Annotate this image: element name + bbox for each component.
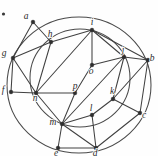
vertex-label-i: i bbox=[91, 17, 94, 27]
edge-layer bbox=[11, 22, 148, 148]
graph-vertex-l bbox=[90, 113, 94, 117]
vertex-label-e: e bbox=[54, 148, 58, 156]
graph-diagram: abcdefghijklmnop bbox=[0, 0, 158, 156]
graph-edge-a-g bbox=[13, 22, 33, 58]
vertex-label-o: o bbox=[89, 66, 94, 76]
vertex-label-g: g bbox=[2, 48, 7, 58]
vertex-label-m: m bbox=[50, 117, 57, 127]
vertex-label-f: f bbox=[2, 85, 6, 95]
graph-vertex-f bbox=[9, 90, 13, 94]
graph-edge-j-o bbox=[92, 57, 124, 65]
vertex-label-b: b bbox=[150, 53, 155, 63]
vertex-label-p: p bbox=[72, 81, 78, 91]
graph-vertex-k bbox=[111, 97, 115, 101]
vertex-label-h: h bbox=[48, 29, 53, 39]
vertex-label-l: l bbox=[90, 103, 93, 113]
graph-vertex-p bbox=[73, 91, 77, 95]
stray-dot-layer bbox=[2, 12, 5, 15]
graph-vertex-a bbox=[31, 20, 35, 24]
graph-edge-k-l bbox=[92, 99, 113, 115]
vertex-label-n: n bbox=[33, 93, 38, 103]
graph-edge-g-h bbox=[13, 42, 51, 58]
figure-root: abcdefghijklmnop bbox=[0, 0, 158, 156]
stray-dot bbox=[2, 12, 5, 15]
graph-edge-i-b bbox=[92, 30, 148, 60]
graph-vertex-i bbox=[90, 28, 94, 32]
graph-vertex-h bbox=[49, 40, 53, 44]
vertex-label-a: a bbox=[24, 11, 29, 21]
graph-edge-n-i bbox=[36, 30, 92, 93]
label-layer: abcdefghijklmnop bbox=[2, 11, 155, 156]
vertex-label-c: c bbox=[142, 110, 147, 120]
graph-vertex-m bbox=[60, 122, 64, 126]
graph-edge-g-f bbox=[11, 58, 13, 92]
graph-vertex-g bbox=[11, 56, 15, 60]
graph-edge-p-m bbox=[62, 93, 75, 124]
graph-edge-i-j bbox=[92, 30, 124, 57]
graph-edge-m-e bbox=[58, 124, 62, 148]
graph-vertex-j bbox=[122, 55, 126, 59]
vertex-label-d: d bbox=[93, 148, 98, 156]
graph-edge-m-d bbox=[62, 124, 96, 148]
graph-edge-l-d bbox=[92, 115, 96, 148]
circle-layer bbox=[7, 17, 151, 153]
graph-edge-h-i bbox=[51, 30, 92, 42]
